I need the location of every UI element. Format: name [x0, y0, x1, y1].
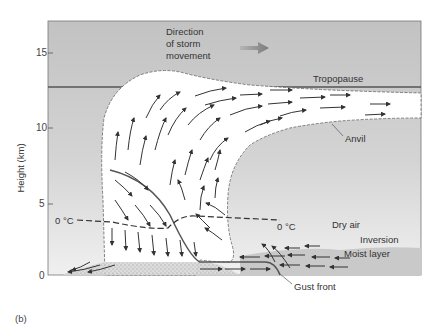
inversion-label: Inversion [360, 234, 399, 245]
panel-label: (b) [15, 313, 27, 324]
dry-air-label: Dry air [332, 219, 360, 230]
tropopause-label: Tropopause [313, 73, 363, 84]
freezing-label-right: 0 °C [277, 221, 296, 232]
freezing-label-left: 0 °C [55, 215, 74, 226]
direction-label-line3: movement [166, 50, 211, 61]
y-tick-15: 15 [36, 47, 48, 58]
gust-front-label: Gust front [294, 281, 336, 292]
y-tick-5: 5 [39, 198, 45, 209]
y-axis-label: Height (km) [15, 143, 26, 192]
moist-layer-label: Moist layer [344, 248, 390, 259]
anvil-label: Anvil [345, 133, 366, 144]
thunderstorm-cross-section-diagram: 15 10 5 0 Height (km) Direction of storm… [0, 0, 438, 325]
gust-front-leader-line [280, 274, 292, 284]
y-tick-0: 0 [39, 270, 45, 281]
direction-label-line1: Direction [166, 26, 204, 37]
y-tick-10: 10 [36, 122, 48, 133]
direction-label-line2: of storm [166, 38, 200, 49]
